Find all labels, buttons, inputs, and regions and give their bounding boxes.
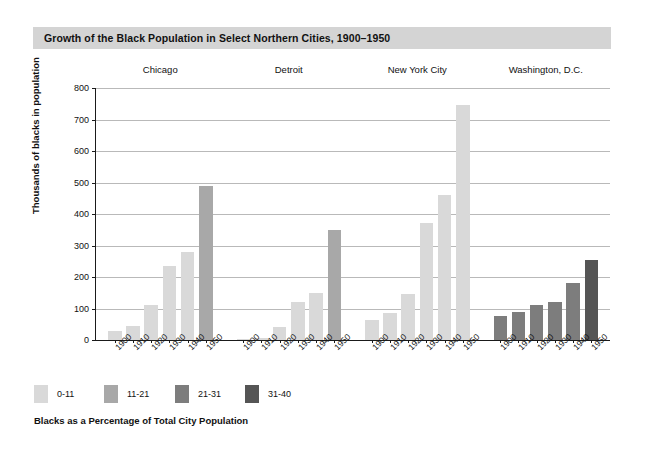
y-tick-label: 300	[74, 241, 89, 251]
legend-swatch	[175, 385, 189, 403]
gridline	[96, 151, 610, 152]
city-group-label: Detroit	[275, 64, 303, 75]
plot-area: 0100200300400500600700800 19001910192019…	[96, 88, 610, 340]
gridline	[96, 246, 610, 247]
city-group-label: Washington, D.C.	[509, 64, 583, 75]
legend-item: 11-21	[104, 385, 149, 403]
y-tick-label: 800	[74, 83, 89, 93]
y-tick-label: 400	[74, 209, 89, 219]
bar	[163, 266, 177, 340]
bar	[438, 195, 452, 340]
bar	[420, 223, 434, 340]
legend-swatch	[245, 385, 259, 403]
y-tick-label: 600	[74, 146, 89, 156]
legend-item: 21-31	[175, 385, 221, 403]
legend-caption: Blacks as a Percentage of Total City Pop…	[34, 415, 248, 426]
bar	[585, 260, 599, 340]
chart-title-band: Growth of the Black Population in Select…	[33, 27, 611, 49]
y-axis-label: Thousands of blacks in population	[30, 57, 41, 214]
legend-item: 31-40	[245, 385, 291, 403]
y-tick-label: 200	[74, 272, 89, 282]
legend-label: 11-21	[127, 389, 149, 399]
y-tick-label: 0	[84, 335, 89, 345]
legend-label: 31-40	[268, 389, 291, 399]
legend-label: 21-31	[198, 389, 221, 399]
city-group-label: Chicago	[143, 64, 178, 75]
gridline	[96, 120, 610, 121]
y-tick-label: 500	[74, 178, 89, 188]
gridline	[96, 88, 610, 89]
page-title: Growth of the Black Population in Select…	[33, 32, 390, 44]
y-tick-label: 100	[74, 304, 89, 314]
gridline	[96, 183, 610, 184]
bar	[199, 186, 213, 340]
bar	[566, 283, 580, 340]
chart-figure: Growth of the Black Population in Select…	[0, 0, 645, 449]
bar	[181, 252, 195, 340]
legend-swatch	[34, 385, 48, 403]
bar	[456, 105, 470, 340]
legend-swatch	[104, 385, 118, 403]
y-tick-label: 700	[74, 115, 89, 125]
legend-item: 0-11	[34, 385, 74, 403]
gridline	[96, 214, 610, 215]
city-group-label: New York City	[388, 64, 447, 75]
y-axis-line	[95, 88, 96, 340]
bar	[328, 230, 342, 340]
x-axis-line	[95, 340, 610, 341]
legend-label: 0-11	[57, 389, 74, 399]
